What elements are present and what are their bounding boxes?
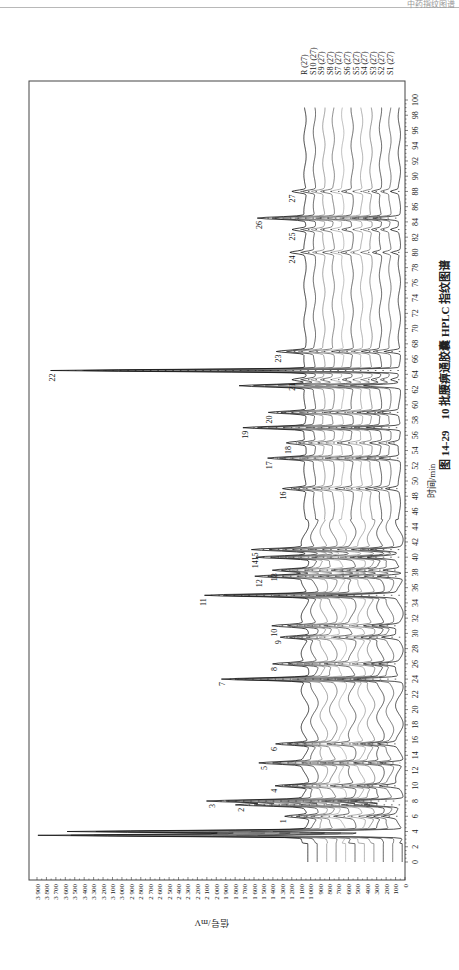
y-tick-label: 0 [402,884,410,888]
x-tick-label: 58 [411,416,420,424]
peak-label-11: 11 [199,598,208,606]
trace-legend: R (27)S10 (27)S9 (27)S8 (27)S7 (27)S6 (2… [300,47,395,75]
hplc-chromatogram-chart: 1234567891011121314151617181920212223242… [0,0,459,970]
y-tick-label: 3 000 [118,884,126,900]
x-tick-label: 26 [411,660,420,668]
legend-item: S1 (27) [386,51,395,75]
trace-S9 [94,108,328,862]
y-tick-label: 2 500 [166,884,174,900]
peak-label-23: 23 [274,354,283,362]
y-tick-label: 2 600 [156,884,164,900]
x-tick-label: 2 [411,845,420,849]
x-tick-label: 22 [411,690,420,698]
peak-label-13: 13 [270,573,279,581]
y-tick-label: 2 400 [175,884,183,900]
plot-frame [29,81,405,880]
x-tick-label: 52 [411,462,420,470]
x-tick-label: 70 [411,325,420,333]
peak-label-7: 7 [218,682,227,686]
x-tick-label: 90 [411,172,420,180]
peak-labels: 1234567891011121314151617181920212223242… [48,191,400,823]
y-tick-label: 1 600 [251,884,259,900]
y-tick-label: 1 100 [298,884,306,900]
y-tick-label: 500 [354,884,362,895]
x-tick-label: 28 [411,645,420,653]
peak-label-8: 8 [270,667,279,671]
x-tick-label: 56 [411,431,420,439]
peak-label-26: 26 [255,221,264,229]
peak-label-12: 12 [255,579,264,587]
peak-label-6: 6 [270,747,279,751]
y-tick-label: 1 900 [222,884,230,900]
chromatogram-traces [38,108,403,862]
peak-label-1: 1 [279,819,288,823]
y-tick-label: 600 [345,884,353,895]
peak-label-16: 16 [279,492,288,500]
y-tick-label: 2 800 [137,884,145,900]
peak-label-10: 10 [270,629,279,637]
y-tick-label: 3 200 [100,884,108,900]
peak-label-19: 19 [241,431,250,439]
peak-label-21: 21 [288,383,297,391]
x-tick-label: 86 [411,203,420,211]
trace-R [38,108,309,862]
y-tick-label: 2 900 [128,884,136,900]
peak-label-3: 3 [208,804,217,808]
peak-label-9: 9 [274,640,283,644]
x-tick-label: 66 [411,355,420,363]
y-tick-label: 1 000 [307,884,315,900]
x-tick-label: 24 [411,675,420,683]
y-tick-label: 3 700 [52,884,60,900]
y-tick-label: 1 700 [241,884,249,900]
x-tick-label: 32 [411,614,420,622]
x-tick-label: 82 [411,233,420,241]
peak-label-15: 15 [251,553,260,561]
x-tick-label: 16 [411,736,420,744]
time-axis: 0246810121416182022242628303234363840424… [405,94,420,864]
x-tick-label: 80 [411,248,420,256]
y-tick-label: 400 [364,884,372,895]
trace-S8 [117,108,337,862]
trace-S6 [154,108,356,862]
x-tick-label: 62 [411,386,420,394]
x-tick-label: 46 [411,507,420,515]
peak-label-20: 20 [265,415,274,423]
y-tick-label: 100 [392,884,400,895]
y-tick-label: 700 [335,884,343,895]
peak-label-18: 18 [284,446,293,454]
x-tick-label: 48 [411,492,420,500]
x-tick-label: 38 [411,568,420,576]
x-tick-label: 96 [411,126,420,134]
y-tick-label: 1 400 [269,884,277,900]
y-tick-label: 1 300 [279,884,287,900]
y-tick-label: 800 [326,884,334,895]
y-tick-label: 2 100 [203,884,211,900]
figure-title: 10 批腰痹通胶囊 HPLC 指纹图谱 [439,260,451,420]
x-tick-label: 10 [411,782,420,790]
peak-label-24: 24 [288,255,297,263]
y-tick-label: 2 000 [213,884,221,900]
x-tick-label: 34 [411,599,420,607]
x-tick-label: 40 [411,553,420,561]
x-tick-label: 76 [411,279,420,287]
y-tick-label: 2 700 [147,884,155,900]
y-tick-label: 3 300 [90,884,98,900]
x-tick-label: 50 [411,477,420,485]
x-tick-label: 78 [411,264,420,272]
x-tick-label: 98 [411,111,420,119]
x-tick-label: 14 [411,751,420,759]
x-tick-label: 0 [411,860,420,864]
y-tick-label: 2 300 [184,884,192,900]
x-tick-label: 68 [411,340,420,348]
y-tick-label: 300 [373,884,381,895]
x-tick-label: 92 [411,157,420,165]
y-tick-label: 900 [317,884,325,895]
peak-label-5: 5 [260,766,269,770]
x-tick-label: 94 [411,142,420,150]
x-tick-label: 6 [411,814,420,818]
y-tick-label: 3 500 [71,884,79,900]
x-tick-label: 42 [411,538,420,546]
x-tick-label: 100 [411,94,420,106]
x-tick-label: 74 [411,294,420,302]
x-tick-label: 88 [411,187,420,195]
